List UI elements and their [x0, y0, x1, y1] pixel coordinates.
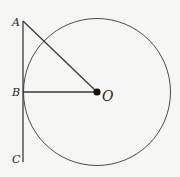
- center-point-o: [93, 88, 100, 95]
- diagram-canvas: [0, 0, 180, 177]
- label-b: B: [12, 87, 20, 98]
- geometry-diagram: A B C O: [0, 0, 180, 177]
- label-a: A: [12, 17, 20, 28]
- label-o: O: [102, 89, 113, 103]
- label-c: C: [12, 154, 20, 165]
- segment-ao: [23, 21, 97, 92]
